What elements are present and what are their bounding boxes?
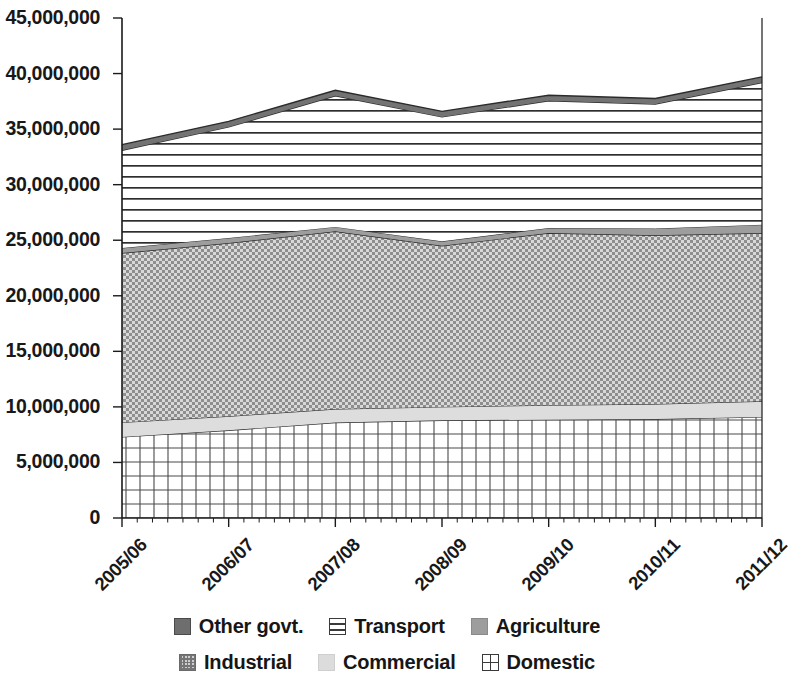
legend-swatch-transport-icon bbox=[329, 618, 346, 635]
legend-item-commercial[interactable]: Commercial bbox=[318, 652, 456, 672]
legend-item-other-govt[interactable]: Other govt. bbox=[174, 616, 303, 636]
legend-row: Other govt.TransportAgriculture bbox=[0, 608, 774, 644]
legend-item-industrial[interactable]: Industrial bbox=[179, 652, 292, 672]
legend-swatch-agriculture-icon bbox=[471, 618, 488, 635]
x-axis-tick-labels: 2005/062006/072007/082008/092009/102010/… bbox=[0, 0, 774, 612]
legend-item-agriculture[interactable]: Agriculture bbox=[471, 616, 600, 636]
legend-row: IndustrialCommercialDomestic bbox=[0, 644, 774, 680]
legend-item-label: Commercial bbox=[343, 652, 456, 672]
legend-item-label: Domestic bbox=[507, 652, 595, 672]
legend-item-label: Industrial bbox=[204, 652, 292, 672]
legend-item-label: Transport bbox=[354, 616, 444, 636]
legend-swatch-other-govt-icon bbox=[174, 618, 191, 635]
legend-swatch-domestic-icon bbox=[482, 654, 499, 671]
legend-swatch-industrial-icon bbox=[179, 654, 196, 671]
legend-swatch-commercial-icon bbox=[318, 654, 335, 671]
plot-area: 05,000,00010,000,00015,000,00020,000,000… bbox=[0, 0, 774, 612]
legend-item-transport[interactable]: Transport bbox=[329, 616, 444, 636]
legend-item-label: Agriculture bbox=[496, 616, 600, 636]
chart-legend: Other govt.TransportAgricultureIndustria… bbox=[0, 608, 774, 684]
legend-item-label: Other govt. bbox=[199, 616, 303, 636]
legend-item-domestic[interactable]: Domestic bbox=[482, 652, 595, 672]
